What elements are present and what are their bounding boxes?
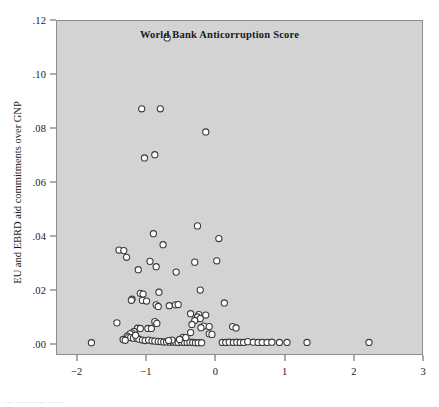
- x-axis-tick-mark: [215, 355, 216, 361]
- data-point: [166, 303, 172, 309]
- data-point: [150, 231, 156, 237]
- y-axis-tick-label: .02: [33, 285, 46, 296]
- data-point: [140, 291, 146, 297]
- data-point: [139, 106, 145, 112]
- data-point: [143, 298, 149, 304]
- data-point: [152, 152, 158, 158]
- data-point: [221, 300, 227, 306]
- data-point: [141, 155, 147, 161]
- y-axis-tick-mark: [50, 344, 56, 345]
- y-axis-tick-mark: [50, 236, 56, 237]
- data-point: [194, 223, 200, 229]
- y-axis-tick-mark: [50, 128, 56, 129]
- x-axis-tick-label: 2: [351, 366, 356, 377]
- x-axis-tick-label: −2: [71, 366, 82, 377]
- data-point: [123, 254, 129, 260]
- y-axis-tick-label: .04: [33, 231, 46, 242]
- x-axis-tick-mark: [353, 355, 354, 361]
- data-point-layer: [57, 21, 422, 354]
- data-point: [154, 320, 160, 326]
- y-axis-tick-mark: [50, 290, 56, 291]
- data-point: [203, 129, 209, 135]
- x-axis: −2−10123: [0, 355, 439, 407]
- data-point: [114, 320, 120, 326]
- x-axis-tick-mark: [76, 355, 77, 361]
- plot-area: [56, 20, 423, 355]
- data-point: [160, 242, 166, 248]
- data-point: [121, 248, 127, 254]
- y-axis-tick-label: .06: [33, 177, 46, 188]
- data-point: [165, 337, 171, 343]
- x-axis-title: World Bank Anticorruption Score: [0, 29, 439, 40]
- data-point: [188, 329, 194, 335]
- data-point: [206, 324, 212, 330]
- data-point: [157, 106, 163, 112]
- data-point: [192, 259, 198, 265]
- y-axis-tick-mark: [50, 74, 56, 75]
- y-axis-tick-label: .10: [33, 69, 46, 80]
- scatter-plot-figure: .00.02.04.06.08.10.12 EU and EBRD aid co…: [0, 0, 439, 407]
- data-point: [177, 336, 183, 342]
- data-point: [216, 235, 222, 241]
- data-point: [304, 339, 310, 345]
- data-point: [88, 340, 94, 346]
- data-point: [153, 264, 159, 270]
- data-point: [148, 325, 154, 331]
- data-point: [155, 303, 161, 309]
- data-point: [183, 335, 189, 341]
- data-point: [132, 332, 138, 338]
- data-point: [269, 339, 275, 345]
- x-axis-tick-mark: [146, 355, 147, 361]
- y-axis-tick-label: .12: [33, 15, 46, 26]
- y-axis-title: EU and EBRD aid commitments over GNP: [12, 68, 23, 318]
- data-point: [276, 339, 282, 345]
- data-point: [197, 287, 203, 293]
- data-point: [199, 340, 205, 346]
- data-point: [173, 269, 179, 275]
- data-point: [122, 337, 128, 343]
- y-axis-tick-label: .00: [33, 339, 46, 350]
- data-point: [128, 297, 134, 303]
- data-point: [189, 321, 195, 327]
- x-axis-tick-label: 1: [282, 366, 287, 377]
- data-point: [214, 258, 220, 264]
- data-point: [147, 258, 153, 264]
- data-point: [137, 325, 143, 331]
- x-axis-tick-label: 0: [213, 366, 218, 377]
- data-point: [209, 331, 215, 337]
- data-point: [135, 267, 141, 273]
- data-point: [198, 325, 204, 331]
- x-axis-tick-mark: [284, 355, 285, 361]
- x-axis-tick-mark: [423, 355, 424, 361]
- data-point: [233, 325, 239, 331]
- data-point: [175, 302, 181, 308]
- y-axis-tick-label: .08: [33, 123, 46, 134]
- data-point: [284, 339, 290, 345]
- y-axis-tick-mark: [50, 20, 56, 21]
- data-point: [366, 339, 372, 345]
- y-axis: .00.02.04.06.08.10.12: [0, 0, 56, 407]
- x-axis-tick-label: −1: [140, 366, 151, 377]
- x-axis-tick-label: 3: [420, 366, 425, 377]
- data-point: [188, 311, 194, 317]
- bottom-caption-fragment: — ———— ——: [6, 398, 64, 407]
- data-point: [156, 289, 162, 295]
- y-axis-tick-mark: [50, 182, 56, 183]
